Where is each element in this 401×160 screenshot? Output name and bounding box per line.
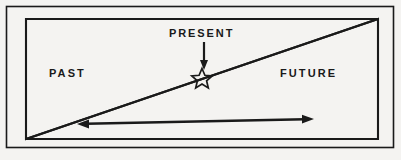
present-pointer-arrow	[200, 42, 208, 70]
span-arrow-head-right	[302, 115, 314, 124]
diagram-canvas: PAST PRESENT FUTURE	[0, 0, 401, 160]
label-past: PAST	[49, 67, 86, 79]
timeline-cone-diagram: PAST PRESENT FUTURE	[0, 0, 401, 160]
span-arrow-shaft	[86, 119, 305, 124]
label-future: FUTURE	[280, 67, 337, 79]
span-double-arrow	[77, 115, 314, 129]
label-present: PRESENT	[169, 27, 234, 39]
